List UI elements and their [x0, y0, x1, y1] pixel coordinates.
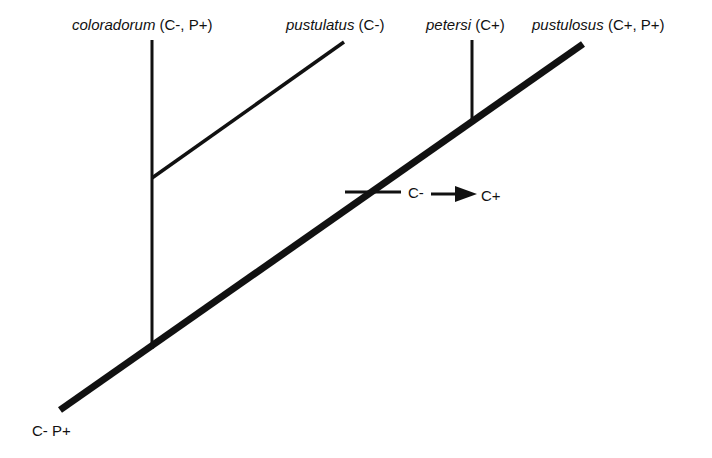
taxon-name: petersi [426, 16, 471, 33]
taxon-name: pustulosus [532, 16, 604, 33]
taxon-traits: (C-) [359, 16, 385, 33]
taxon-name: pustulatus [286, 16, 354, 33]
transition-from-label: C- [408, 185, 424, 200]
arrow-icon [431, 186, 477, 202]
taxon-label-petersi: petersi (C+) [426, 17, 505, 32]
main-lineage-branch [60, 44, 583, 410]
taxon-traits: (C+, P+) [608, 16, 665, 33]
taxon-traits: (C+) [475, 16, 505, 33]
root-state-label: C- P+ [32, 423, 71, 438]
cladogram-svg [0, 0, 712, 458]
taxon-label-coloradorum: coloradorum (C-, P+) [72, 17, 212, 32]
taxon-label-pustulatus: pustulatus (C-) [286, 17, 384, 32]
transition-to-label: C+ [481, 188, 501, 203]
pustulatus-branch [152, 42, 344, 178]
taxon-name: coloradorum [72, 16, 155, 33]
taxon-traits: (C-, P+) [160, 16, 213, 33]
taxon-label-pustulosus: pustulosus (C+, P+) [532, 17, 665, 32]
